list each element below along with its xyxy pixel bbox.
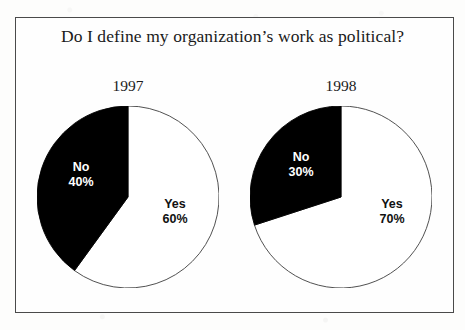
pie-label-1997-yes-value: 60% — [146, 212, 204, 227]
chart-year-label-1998: 1998 — [281, 77, 401, 95]
pie-label-1998-no-name: No — [272, 150, 330, 165]
figure-screenshot: Do I define my organization’s work as po… — [0, 0, 465, 330]
pie-label-1997-yes-name: Yes — [146, 197, 204, 212]
pie-label-1997-no-value: 40% — [52, 175, 110, 190]
pie-label-1997-no: No 40% — [52, 160, 110, 190]
pie-label-1997-yes: Yes 60% — [146, 197, 204, 227]
pie-label-1998-no: No 30% — [272, 150, 330, 180]
chart-year-label-1997: 1997 — [68, 77, 188, 95]
pie-label-1998-yes: Yes 70% — [363, 197, 421, 227]
pie-label-1998-yes-value: 70% — [363, 212, 421, 227]
pie-label-1998-no-value: 30% — [272, 165, 330, 180]
pie-label-1997-no-name: No — [52, 160, 110, 175]
figure-title: Do I define my organization’s work as po… — [0, 26, 465, 47]
pie-label-1998-yes-name: Yes — [363, 197, 421, 212]
